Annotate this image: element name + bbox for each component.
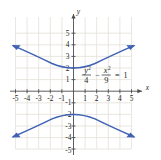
x-tick-label: 3 [106,94,110,103]
x-tick-label: -2 [47,94,53,103]
x-tick-label: -1 [59,94,65,103]
graph-canvas: -5 -4 -3 -2 -1 1 2 3 4 5 5 4 3 2 1 -1 -2… [0,0,161,160]
y-tick-label: -1 [65,98,71,107]
equation-equals: = [115,71,120,80]
x-tick-label: -4 [24,94,30,103]
equation-numerator-2: x [103,66,108,75]
x-tick-labels: -5 -4 -3 -2 -1 1 2 3 4 5 [12,94,133,103]
x-tick-label: -5 [12,94,18,103]
equation-denominator-2: 9 [104,76,108,85]
y-tick-label: 4 [66,40,70,49]
y-tick-label: 1 [66,75,70,84]
equation-numerator-1-exponent: 2 [88,65,91,71]
equation-right-side: 1 [124,71,128,80]
x-tick-label: 4 [118,94,122,103]
axis-lines [10,14,142,155]
hyperbola-graph-figure: -5 -4 -3 -2 -1 1 2 3 4 5 5 4 3 2 1 -1 -2… [0,0,161,160]
equation-operator: − [95,71,100,80]
x-axis-arrow [137,89,142,93]
y-tick-label: 5 [66,29,70,38]
equation-numerator-2-exponent: 2 [108,65,111,71]
x-tick-label: -3 [36,94,42,103]
x-tick-label: 1 [83,94,87,103]
y-axis-arrow [71,14,75,19]
y-tick-label: -4 [65,133,71,142]
y-tick-label: -5 [65,146,71,155]
equation-denominator-1: 4 [84,76,88,85]
y-tick-labels: 5 4 3 2 1 -1 -2 -3 -4 -5 [65,29,71,155]
x-axis-label: x [145,83,150,92]
y-tick-label: -3 [65,122,71,131]
x-tick-label: 2 [95,94,99,103]
y-axis-label: y [76,7,81,16]
x-tick-label: 5 [130,94,134,103]
y-tick-label: 3 [66,52,70,61]
